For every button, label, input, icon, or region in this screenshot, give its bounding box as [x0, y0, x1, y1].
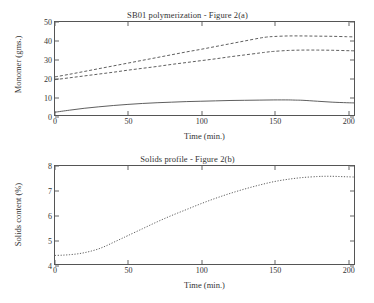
series-monomer-lower-dashed — [55, 50, 354, 80]
figure-2b: Solids profile - Figure 2(b) Solids cont… — [0, 150, 374, 303]
x-axis-label-b: Time (min.) — [54, 280, 355, 290]
x-tick-label: 150 — [269, 115, 281, 126]
series-layer-a — [55, 22, 354, 115]
y-tick-label: 30 — [44, 56, 55, 65]
y-tick-label: 20 — [44, 75, 55, 84]
series-layer-b — [55, 166, 354, 264]
chart-title-b: Solids profile - Figure 2(b) — [20, 154, 355, 164]
series-monomer-solid — [55, 100, 354, 112]
y-tick-label: 40 — [44, 37, 55, 46]
y-tick-mark — [350, 117, 354, 118]
y-tick-label: 7 — [48, 187, 55, 196]
plot-area-a: 01020304050050100150200 — [54, 21, 355, 116]
x-tick-label: 50 — [124, 115, 132, 126]
x-tick-label: 100 — [196, 115, 208, 126]
x-tick-label: 50 — [124, 264, 132, 275]
x-tick-label: 0 — [53, 264, 57, 275]
y-axis-label-a: Monomer (gms.) — [13, 17, 23, 112]
plot-area-b: 45678050100150200 — [54, 165, 355, 265]
y-tick-label: 10 — [44, 94, 55, 103]
y-tick-mark — [55, 266, 59, 267]
y-tick-label: 4 — [48, 262, 55, 271]
x-tick-label: 100 — [196, 264, 208, 275]
y-tick-mark — [350, 266, 354, 267]
chart-title-a: SB01 polymerization - Figure 2(a) — [20, 10, 355, 20]
y-axis-label-b: Solids content (%) — [13, 162, 23, 267]
y-tick-label: 5 — [48, 237, 55, 246]
y-tick-label: 6 — [48, 212, 55, 221]
x-axis-label-a: Time (min.) — [54, 131, 355, 141]
x-tick-label: 0 — [53, 115, 57, 126]
x-tick-label: 200 — [343, 264, 355, 275]
figure-2a: SB01 polymerization - Figure 2(a) Monome… — [0, 0, 374, 150]
y-tick-mark — [55, 117, 59, 118]
series-monomer-upper-dashed — [55, 36, 354, 77]
series-solids-content — [55, 176, 354, 255]
y-tick-label: 0 — [48, 113, 55, 122]
x-tick-label: 200 — [343, 115, 355, 126]
x-tick-label: 150 — [269, 264, 281, 275]
